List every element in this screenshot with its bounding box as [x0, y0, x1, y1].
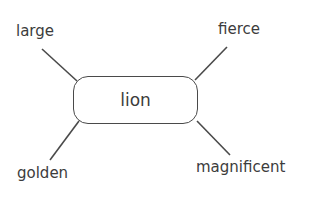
branch-fierce: fierce: [218, 20, 260, 38]
connector-large: [42, 49, 77, 81]
center-label: lion: [120, 90, 151, 110]
branch-golden: golden: [17, 164, 68, 182]
center-node: lion: [73, 76, 198, 124]
branch-magnificent: magnificent: [196, 158, 285, 176]
connector-magnificent: [197, 121, 230, 155]
branch-large: large: [16, 22, 54, 40]
connector-golden: [50, 121, 79, 160]
connector-fierce: [195, 47, 227, 80]
